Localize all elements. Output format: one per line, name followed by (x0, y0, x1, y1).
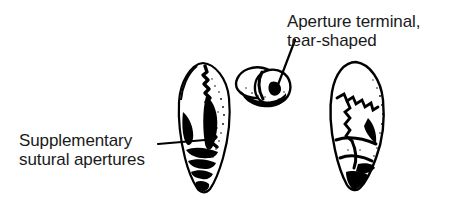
supplementary-label: Supplementary sutural apertures (19, 131, 145, 169)
supplementary-label-line1: Supplementary (19, 131, 145, 150)
specimen-right-side-view (331, 62, 384, 190)
specimen-left-side-view (179, 63, 230, 192)
aperture-label-line1: Aperture terminal, (287, 12, 420, 31)
aperture-label: Aperture terminal, tear-shaped (287, 12, 420, 50)
foraminifera-figure: Aperture terminal, tear-shaped Supplemen… (0, 0, 454, 214)
supplementary-label-line2: sutural apertures (19, 150, 145, 169)
aperture-label-line2: tear-shaped (287, 31, 420, 50)
